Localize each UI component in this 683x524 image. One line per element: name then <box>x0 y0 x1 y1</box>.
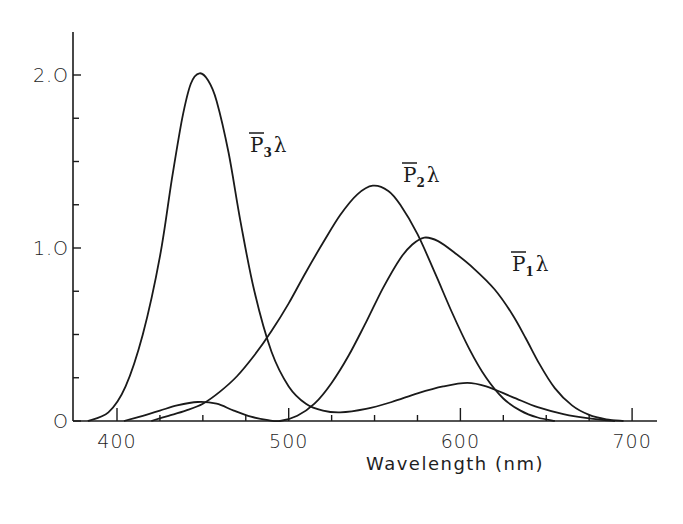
x-tick-label: 400 <box>97 430 136 452</box>
svg-text:P3λ: P3λ <box>250 133 287 160</box>
spectral-sensitivity-chart: 400500600700 O1.O2.O P3λP2λP1λ Wavelengt… <box>0 0 683 524</box>
axes <box>73 32 657 421</box>
curve-p2-lambda <box>151 186 555 421</box>
label-p2-lambda: P2λ <box>402 163 440 190</box>
curves <box>88 73 624 421</box>
label-p3-lambda: P3λ <box>249 133 287 160</box>
x-tick-label: 700 <box>612 430 651 452</box>
y-tick-label: 2.O <box>33 64 69 86</box>
svg-text:P2λ: P2λ <box>403 163 440 190</box>
y-tick-label: O <box>53 410 69 432</box>
x-tick-label: 600 <box>441 430 480 452</box>
curve-p1-lambda <box>124 237 624 421</box>
svg-text:P1λ: P1λ <box>512 252 549 279</box>
curve-p3-lambda <box>88 73 615 421</box>
label-p1-lambda: P1λ <box>511 252 549 279</box>
x-tick-label: 500 <box>269 430 308 452</box>
x-axis-title: Wavelength (nm) <box>366 453 544 474</box>
curve-labels: P3λP2λP1λ <box>249 133 549 279</box>
y-tick-label: 1.O <box>33 237 69 259</box>
